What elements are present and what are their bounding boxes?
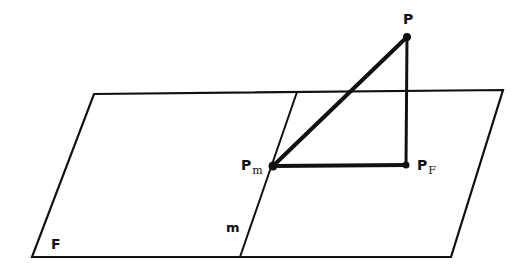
label-PF: PF (417, 158, 436, 172)
segment-Pm-PF (273, 165, 406, 166)
geometry-svg (0, 0, 530, 279)
segment-P-PF (406, 37, 407, 165)
label-F-text: F (51, 236, 61, 252)
point-P (403, 33, 411, 41)
label-P-text: P (403, 11, 413, 27)
label-PF-subscript: F (428, 164, 436, 177)
label-Pm-main: P (241, 157, 251, 173)
label-m-text: m (226, 220, 240, 235)
label-PF-main: P (417, 157, 427, 173)
label-F: F (51, 237, 61, 251)
label-P: P (403, 12, 413, 26)
point-PF (403, 162, 410, 169)
diagram-canvas: P Pm PF F m (0, 0, 530, 279)
label-Pm-subscript: m (252, 164, 262, 177)
label-Pm: Pm (241, 158, 263, 172)
point-Pm (269, 162, 278, 171)
line-m (240, 92, 297, 257)
label-m: m (226, 221, 240, 234)
